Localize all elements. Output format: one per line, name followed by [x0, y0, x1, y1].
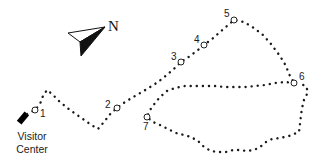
stop-4-label: 4	[194, 35, 200, 45]
visitor-center-label-line1: Visitor	[14, 130, 50, 143]
stop-2-marker-icon	[114, 105, 120, 111]
stop-6-label: 6	[299, 72, 305, 82]
trail-loop	[147, 82, 308, 152]
stop-3-label: 3	[171, 52, 177, 62]
visitor-center-label-line2: Center	[14, 143, 50, 156]
stop-2-label: 2	[105, 100, 111, 110]
north-label: N	[108, 18, 119, 35]
north-arrow-icon	[68, 27, 105, 56]
stop-1-marker-icon	[32, 107, 38, 113]
trail-main	[27, 20, 294, 129]
stop-7-marker-icon	[144, 114, 150, 120]
stop-1-label: 1	[40, 109, 46, 119]
stop-6-marker-icon	[291, 80, 297, 86]
stop-7-label: 7	[143, 122, 149, 132]
stop-5-marker-icon	[231, 17, 237, 23]
stop-5-label: 5	[224, 9, 230, 19]
stop-3-marker-icon	[178, 59, 184, 65]
visitor-center-label: Visitor Center	[14, 130, 50, 156]
stop-4-marker-icon	[201, 42, 207, 48]
